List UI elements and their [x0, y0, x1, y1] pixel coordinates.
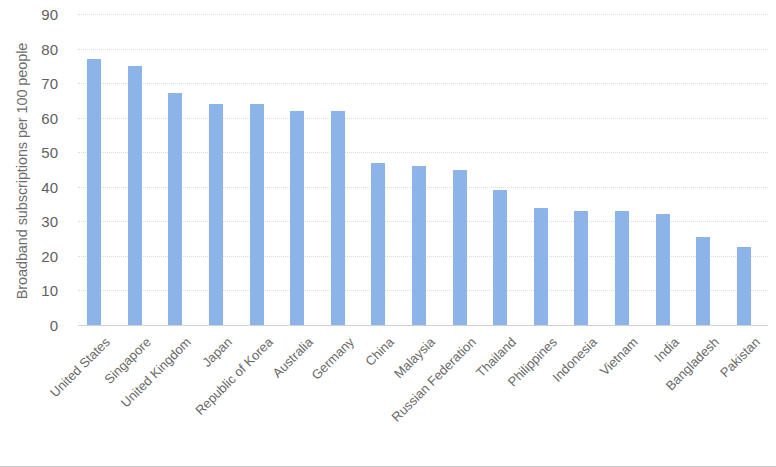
bar	[656, 214, 670, 325]
bar	[128, 66, 142, 325]
bar	[371, 163, 385, 325]
bar	[574, 211, 588, 325]
x-axis-tick-labels: United StatesSingaporeUnited KingdomJapa…	[78, 325, 768, 467]
bar-chart: Broadband subscriptions per 100 people 9…	[0, 0, 776, 467]
y-tick-label: 40	[24, 179, 58, 194]
y-tick-label: 80	[24, 41, 58, 56]
bar	[250, 104, 264, 325]
bar	[737, 247, 751, 325]
bar	[87, 59, 101, 325]
bar	[412, 166, 426, 325]
y-tick-label: 50	[24, 145, 58, 160]
bar	[209, 104, 223, 325]
gridline	[78, 83, 768, 84]
bar	[493, 190, 507, 325]
bar	[168, 93, 182, 325]
y-tick-label: 30	[24, 214, 58, 229]
gridline	[78, 49, 768, 50]
y-tick-label: 70	[24, 76, 58, 91]
y-tick-label: 60	[24, 110, 58, 125]
bar	[696, 237, 710, 325]
y-tick-label: 20	[24, 248, 58, 263]
bar	[290, 111, 304, 325]
y-tick-label: 10	[24, 283, 58, 298]
y-tick-label: 90	[24, 7, 58, 22]
bar	[331, 111, 345, 325]
bar	[615, 211, 629, 325]
bar	[534, 208, 548, 325]
bar	[453, 170, 467, 326]
y-tick-label: 0	[24, 318, 58, 333]
gridline	[78, 14, 768, 15]
plot-area	[78, 14, 768, 325]
